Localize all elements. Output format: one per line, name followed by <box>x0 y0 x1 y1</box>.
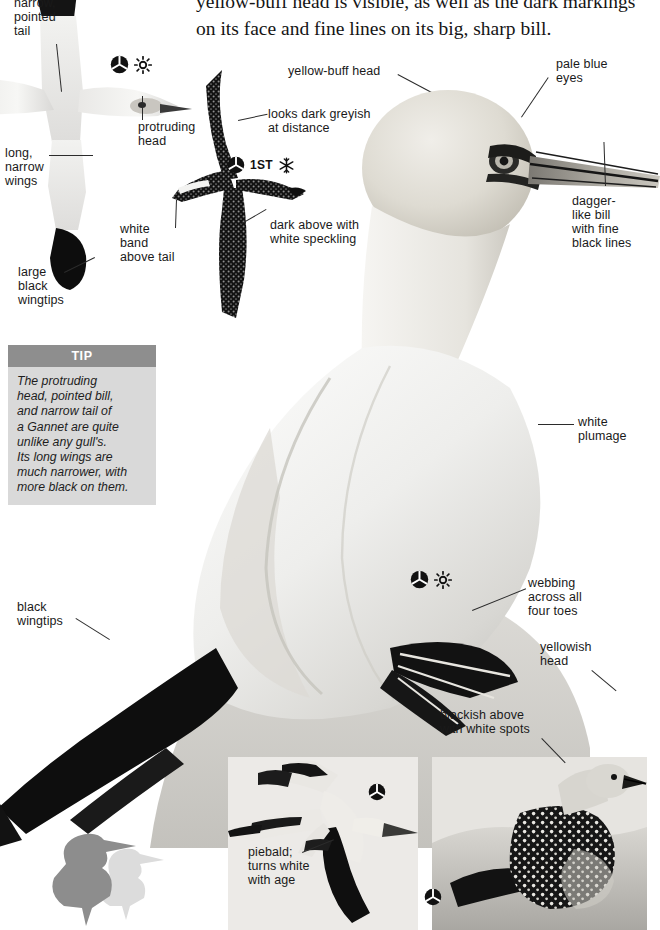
adult-plumage-icon <box>368 783 386 801</box>
icon-group-juvenile-perched <box>424 888 442 906</box>
silhouette-group-size-comparison <box>52 820 232 930</box>
inset-juvenile-perched <box>432 757 647 930</box>
label-black-wingtips: black wingtips <box>17 600 63 628</box>
label-dagger-like-bill: dagger- like bill with fine black lines <box>572 194 631 250</box>
leader-white-plumage <box>538 424 574 425</box>
intro-paragraph: yellow-buff head is visible, as well as … <box>196 0 648 42</box>
photo-juvenile-perched <box>432 757 647 930</box>
summer-icon <box>434 571 452 589</box>
label-piebald-turns-white: piebald; turns white with age <box>248 845 310 887</box>
label-narrow-pointed-tail: narrow, pointed tail <box>14 0 56 38</box>
icon-group-immature-flight <box>368 783 386 801</box>
adult-plumage-icon <box>424 888 442 906</box>
icon-group-adult-summer-feet <box>410 570 452 589</box>
label-blackish-above-white-spots: blackish above with white spots <box>440 708 530 736</box>
label-pale-blue-eyes: pale blue eyes <box>556 57 608 85</box>
adult-plumage-icon <box>410 570 429 589</box>
photo-adult-gannet-main <box>0 48 660 848</box>
label-white-plumage: white plumage <box>578 415 627 443</box>
label-webbing-four-toes: webbing across all four toes <box>528 576 582 618</box>
label-yellowish-head: yellowish head <box>540 640 592 668</box>
